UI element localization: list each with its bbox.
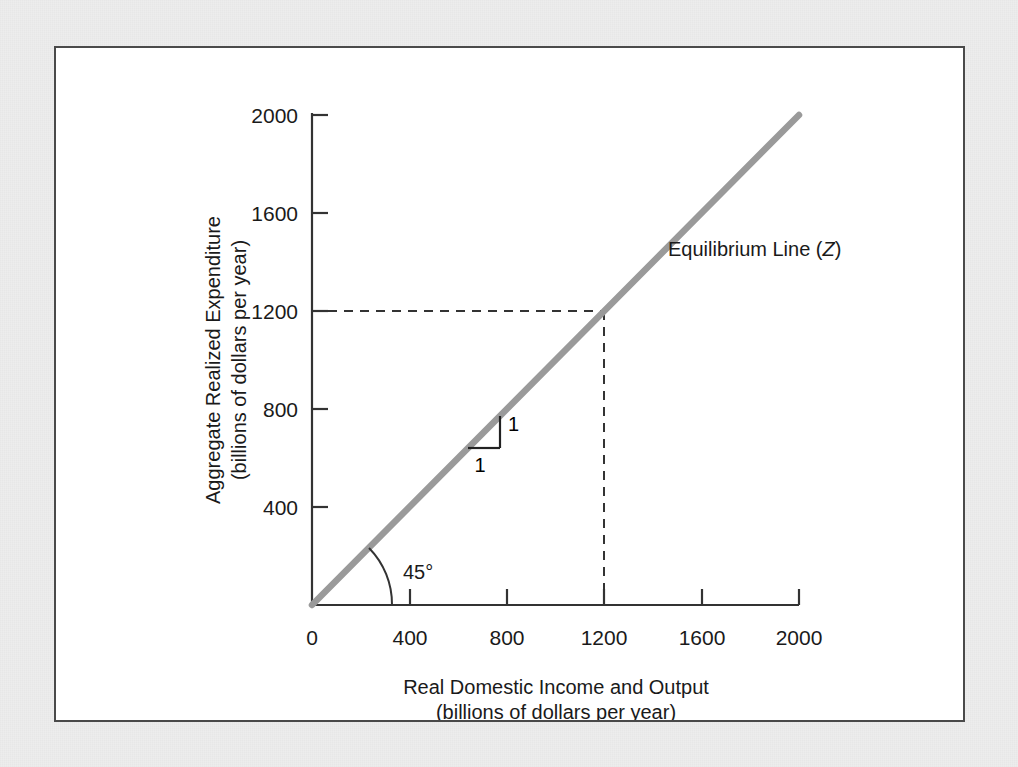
y-axis-title-group: Aggregate Realized Expenditure (billions… bbox=[202, 216, 250, 504]
x-tick-label-0: 0 bbox=[306, 626, 318, 649]
x-axis-title-sub: (billions of dollars per year) bbox=[436, 701, 676, 720]
x-tick-label-400: 400 bbox=[392, 626, 427, 649]
equilibrium-line bbox=[312, 115, 799, 605]
equilibrium-line-label: Equilibrium Line (Z) bbox=[668, 238, 841, 260]
chart-plot-area: 2000 1600 1200 800 400 0 400 800 1200 16… bbox=[56, 48, 963, 720]
x-tick-label-800: 800 bbox=[489, 626, 524, 649]
x-tick-labels: 0 400 800 1200 1600 2000 bbox=[306, 626, 822, 649]
chart-panel: 2000 1600 1200 800 400 0 400 800 1200 16… bbox=[54, 46, 965, 722]
y-axis-title: Aggregate Realized Expenditure bbox=[202, 216, 224, 504]
equilibrium-line-label-text: Equilibrium Line ( bbox=[668, 238, 823, 260]
y-tick-labels: 2000 1600 1200 800 400 bbox=[251, 104, 298, 519]
slope-run-label: 1 bbox=[474, 454, 485, 476]
x-axis-title-group: Real Domestic Income and Output (billion… bbox=[403, 676, 709, 720]
x-tick-label-1600: 1600 bbox=[679, 626, 726, 649]
x-tick-label-1200: 1200 bbox=[581, 626, 628, 649]
angle-arc bbox=[369, 548, 392, 605]
y-tick-label-2000: 2000 bbox=[251, 104, 298, 127]
y-tick-label-800: 800 bbox=[263, 398, 298, 421]
y-tick-label-1600: 1600 bbox=[251, 202, 298, 225]
y-tick-label-400: 400 bbox=[263, 496, 298, 519]
figure-root: 2000 1600 1200 800 400 0 400 800 1200 16… bbox=[0, 0, 1018, 767]
equilibrium-line-label-tail: ) bbox=[835, 238, 842, 260]
y-tick-label-1200: 1200 bbox=[251, 300, 298, 323]
angle-label: 45° bbox=[403, 561, 433, 583]
slope-rise-label: 1 bbox=[508, 413, 519, 435]
x-tick-label-2000: 2000 bbox=[776, 626, 823, 649]
equilibrium-line-label-variable: Z bbox=[822, 238, 836, 260]
y-axis-title-sub: (billions of dollars per year) bbox=[228, 240, 250, 480]
x-axis-title: Real Domestic Income and Output bbox=[403, 676, 709, 698]
